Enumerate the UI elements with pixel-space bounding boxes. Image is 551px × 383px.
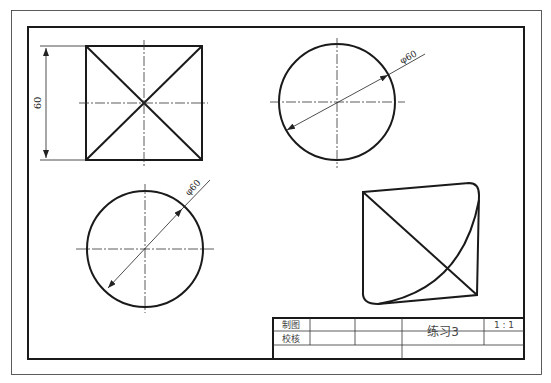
outer-border xyxy=(12,11,542,375)
drawing-sheet: 60 φ60 φ60 制图 校核 练习3 1 : 1 xyxy=(0,0,551,383)
circle-bottom-left-view: φ60 xyxy=(76,177,214,313)
scale-value: 1 : 1 xyxy=(494,320,514,330)
dimension-60: 60 xyxy=(32,97,43,110)
dimension-phi60-bottom: φ60 xyxy=(183,177,203,197)
drafter-label: 制图 xyxy=(282,319,300,330)
inner-border xyxy=(28,27,524,359)
square-view: 60 xyxy=(32,40,208,166)
title-block: 制图 校核 练习3 1 : 1 xyxy=(273,318,524,359)
circle-top-right-view: φ60 xyxy=(270,38,425,168)
checker-label: 校核 xyxy=(282,333,300,344)
drawing-title: 练习3 xyxy=(427,324,459,339)
skewed-shape-view xyxy=(363,183,479,304)
